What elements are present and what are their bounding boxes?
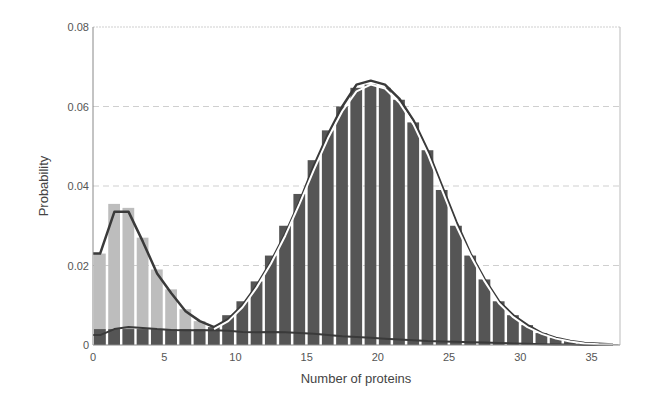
bar-dark bbox=[137, 329, 149, 345]
bar-dark bbox=[450, 226, 462, 345]
bar-dark bbox=[350, 88, 362, 345]
x-tick-label: 0 bbox=[90, 351, 96, 363]
x-axis-label: Number of proteins bbox=[301, 371, 412, 386]
bar-dark bbox=[194, 329, 206, 345]
y-tick-label: 0 bbox=[83, 339, 89, 351]
y-axis-label: Probability bbox=[36, 155, 51, 216]
bar-dark bbox=[179, 329, 191, 345]
x-tick-label: 10 bbox=[229, 351, 241, 363]
x-tick-label: 15 bbox=[301, 351, 313, 363]
bar-light bbox=[122, 208, 134, 345]
bar-dark bbox=[407, 122, 419, 345]
bar-dark bbox=[393, 100, 405, 345]
bar-dark bbox=[464, 256, 476, 345]
bar-dark bbox=[436, 190, 448, 345]
bar-dark bbox=[422, 150, 434, 345]
x-tick-label: 30 bbox=[514, 351, 526, 363]
bar-dark bbox=[479, 279, 491, 345]
histogram-chart: 05101520253035 00.020.040.060.08 Number … bbox=[0, 0, 652, 401]
y-axis-ticks: 00.020.040.060.08 bbox=[68, 21, 89, 351]
bar-dark bbox=[293, 194, 305, 345]
x-tick-label: 5 bbox=[161, 351, 167, 363]
x-tick-label: 35 bbox=[585, 351, 597, 363]
bar-dark bbox=[165, 329, 177, 345]
bar-dark bbox=[379, 88, 391, 345]
bar-dark bbox=[365, 85, 377, 345]
x-tick-label: 20 bbox=[372, 351, 384, 363]
y-tick-label: 0.04 bbox=[68, 180, 89, 192]
bar-dark bbox=[122, 329, 134, 345]
bar-dark bbox=[308, 160, 320, 345]
y-tick-label: 0.02 bbox=[68, 260, 89, 272]
y-tick-label: 0.06 bbox=[68, 101, 89, 113]
bar-dark bbox=[151, 329, 163, 345]
y-tick-label: 0.08 bbox=[68, 21, 89, 33]
x-tick-label: 25 bbox=[443, 351, 455, 363]
bar-dark bbox=[322, 130, 334, 345]
bar-dark bbox=[336, 107, 348, 346]
x-axis-ticks: 05101520253035 bbox=[90, 351, 598, 363]
bar-dark bbox=[94, 329, 106, 345]
